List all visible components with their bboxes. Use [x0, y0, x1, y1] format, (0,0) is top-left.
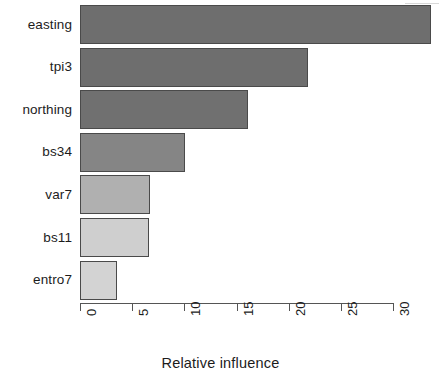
category-label-bs11: bs11	[0, 231, 72, 245]
x-tick-label-25: 25	[346, 302, 359, 316]
x-tick-label-15: 15	[242, 302, 255, 316]
x-tick-0	[80, 303, 81, 311]
x-tick-label-0: 0	[85, 309, 98, 316]
bar-bs11	[80, 218, 149, 257]
x-tick-label-20: 20	[294, 302, 307, 316]
bar-bs34	[80, 133, 185, 172]
x-tick-label-30: 30	[398, 302, 411, 316]
x-tick-25	[341, 303, 342, 311]
bar-var7	[80, 175, 150, 214]
category-axis: eastingtpi3northingbs34var7bs11entro7	[0, 0, 72, 300]
x-tick-5	[132, 303, 133, 311]
category-label-easting: easting	[0, 18, 72, 32]
x-tick-label-10: 10	[189, 302, 202, 316]
bar-entro7	[80, 261, 117, 300]
category-label-tpi3: tpi3	[0, 60, 72, 74]
bar-easting	[80, 5, 431, 44]
x-tick-20	[289, 303, 290, 311]
x-tick-15	[237, 303, 238, 311]
x-tick-10	[184, 303, 185, 311]
relative-influence-bar-chart: eastingtpi3northingbs34var7bs11entro7 05…	[0, 0, 441, 386]
x-axis-title: Relative influence	[0, 356, 441, 371]
x-tick-label-5: 5	[137, 309, 150, 316]
bar-tpi3	[80, 48, 308, 87]
bar-northing	[80, 90, 248, 129]
category-label-bs34: bs34	[0, 145, 72, 159]
category-label-northing: northing	[0, 103, 72, 117]
x-tick-30	[393, 303, 394, 311]
x-axis: 051015202530	[80, 300, 400, 314]
plot-area	[80, 0, 435, 300]
category-label-var7: var7	[0, 188, 72, 202]
category-label-entro7: entro7	[0, 273, 72, 287]
